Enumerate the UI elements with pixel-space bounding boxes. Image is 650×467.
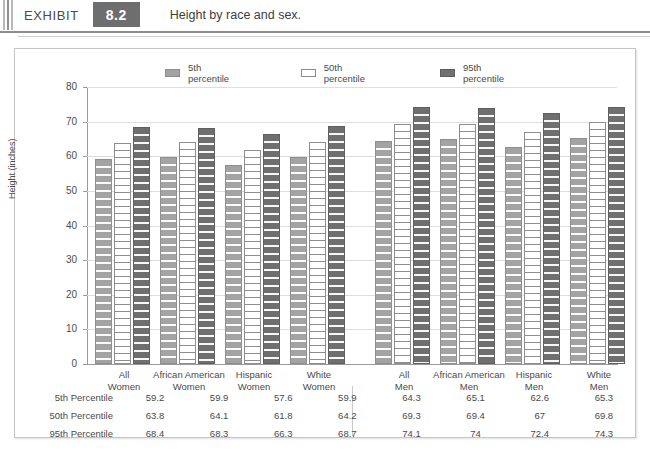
bar-1: [244, 150, 261, 364]
table-cell: 67: [508, 406, 572, 424]
bar-group: [225, 87, 280, 364]
table-row-header: 50th Percentile: [14, 406, 123, 424]
exhibit-word: EXHIBIT: [14, 0, 93, 30]
bar-group: [375, 87, 430, 364]
table-cell: 64.2: [315, 406, 379, 424]
header-rule-secondary: [18, 36, 650, 37]
table-cell: 64.1: [187, 406, 251, 424]
bar-0: [440, 139, 457, 364]
table-row-header: 95th Percentile: [14, 424, 123, 442]
exhibit-header: EXHIBIT 8.2 Height by race and sex.: [0, 0, 650, 30]
bar-0: [290, 157, 307, 364]
table-cell: 59.9: [187, 388, 251, 406]
bar-0: [95, 159, 112, 364]
data-table: 5th Percentile59.259.957.659.964.365.162…: [14, 388, 636, 442]
legend-swatch-icon-0: [165, 69, 180, 77]
plot-area: [87, 87, 617, 364]
exhibit-title: Height by race and sex.: [140, 0, 301, 30]
table-cell: 69.8: [572, 406, 636, 424]
bar-2: [263, 134, 280, 364]
bar-2: [133, 127, 150, 364]
legend-label-2: 95th percentile: [463, 62, 525, 84]
table-row-header: 5th Percentile: [14, 388, 123, 406]
bar-1: [459, 124, 476, 364]
bar-2: [478, 108, 495, 364]
exhibit-decorative-bars: [0, 0, 14, 30]
x-axis-line: [87, 364, 618, 365]
bar-0: [225, 165, 242, 364]
table-cell: 62.6: [508, 388, 572, 406]
table-row: 95th Percentile68.468.366.368.774.17472.…: [14, 424, 636, 442]
legend-swatch-icon-1: [301, 69, 316, 77]
table-cell: 57.6: [251, 388, 315, 406]
y-tick-label-60: 60: [51, 150, 77, 161]
bar-0: [375, 141, 392, 364]
table-cell: 65.1: [444, 388, 508, 406]
table-cell: 65.3: [572, 388, 636, 406]
y-tick-label-70: 70: [51, 116, 77, 127]
bar-group: [440, 87, 495, 364]
header-rule: [0, 31, 650, 33]
bar-2: [608, 107, 625, 364]
table-cell: 68.3: [187, 424, 251, 442]
y-tick-label-0: 0: [51, 358, 77, 369]
bar-0: [570, 138, 587, 364]
bar-2: [413, 107, 430, 364]
bar-group: [505, 87, 560, 364]
bar-1: [179, 142, 196, 364]
table-cell: 69.4: [444, 406, 508, 424]
table-cell: 59.2: [123, 388, 187, 406]
bar-group: [160, 87, 215, 364]
category-label-line: White: [274, 369, 364, 381]
table-cell: 61.8: [251, 406, 315, 424]
y-tick-label-50: 50: [51, 185, 77, 196]
bar-group: [570, 87, 625, 364]
table-row: 50th Percentile63.864.161.864.269.369.46…: [14, 406, 636, 424]
bar-2: [543, 113, 560, 364]
table-cell: 69.3: [379, 406, 443, 424]
exhibit-number-badge: 8.2: [93, 2, 140, 27]
legend-label-1: 50th percentile: [324, 62, 386, 84]
bar-group: [95, 87, 150, 364]
table-cell: 74.3: [572, 424, 636, 442]
bar-0: [160, 157, 177, 364]
legend-item-2: 95th percentile: [440, 62, 525, 84]
y-tick-label-40: 40: [51, 220, 77, 231]
bar-1: [524, 132, 541, 364]
table-cell: 72.4: [508, 424, 572, 442]
table-cell: 66.3: [251, 424, 315, 442]
legend-item-1: 50th percentile: [301, 62, 386, 84]
y-tick-label-80: 80: [51, 81, 77, 92]
bar-2: [328, 126, 345, 364]
table-cell: 74: [444, 424, 508, 442]
legend-item-0: 5th percentile: [165, 62, 245, 84]
table-cell: 74.1: [379, 424, 443, 442]
y-axis-label: Height (inches): [7, 138, 17, 199]
chart-frame: 5th percentile50th percentile95th percen…: [14, 48, 636, 438]
y-tick-label-30: 30: [51, 254, 77, 265]
table-cell: 68.4: [123, 424, 187, 442]
bar-group: [290, 87, 345, 364]
table-cell: 59.9: [315, 388, 379, 406]
legend-swatch-icon-2: [440, 69, 455, 77]
chart-legend: 5th percentile50th percentile95th percen…: [165, 62, 525, 84]
table-cell: 63.8: [123, 406, 187, 424]
y-tick-label-10: 10: [51, 323, 77, 334]
bar-1: [114, 143, 131, 364]
bar-1: [589, 122, 606, 364]
table-cell: 64.3: [379, 388, 443, 406]
table-row: 5th Percentile59.259.957.659.964.365.162…: [14, 388, 636, 406]
legend-label-0: 5th percentile: [188, 62, 245, 84]
y-tick-mark-0: [83, 364, 87, 365]
category-label-line: White: [554, 369, 644, 381]
bar-1: [309, 142, 326, 364]
table-cell: 68.7: [315, 424, 379, 442]
bar-1: [394, 124, 411, 364]
bar-2: [198, 128, 215, 364]
bar-0: [505, 147, 522, 364]
y-tick-label-20: 20: [51, 289, 77, 300]
